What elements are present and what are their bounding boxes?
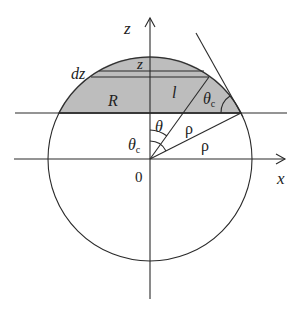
x-axis-label: x (276, 169, 285, 188)
theta-c-lower-arc (150, 141, 166, 151)
rho-inner-label: ρ (185, 120, 193, 138)
theta-label: θ (155, 118, 163, 135)
dz-label: dz (71, 65, 86, 82)
l-label: l (172, 84, 177, 101)
R-label: R (107, 92, 118, 109)
origin-label: 0 (135, 169, 143, 185)
radius-to-cap-edge (150, 113, 241, 159)
spherical-cap-diagram: z x 0 dz z R l θc θ θc ρ ρ (0, 0, 300, 314)
z-axis-label: z (123, 19, 131, 38)
theta-c-lower-label: θc (128, 136, 141, 155)
z-strip-label: z (136, 56, 143, 72)
rho-outer-label: ρ (201, 137, 209, 155)
